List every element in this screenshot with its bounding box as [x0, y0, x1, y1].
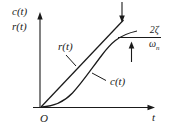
- y-axis-label-c-text: c(t): [12, 5, 27, 17]
- x-axis-arrowhead: [148, 105, 156, 110]
- y-axis-label-c: c(t): [12, 6, 27, 17]
- curve-c-of-t: [41, 31, 137, 107]
- y-axis-arrowhead: [37, 12, 42, 20]
- x-axis-label: t: [152, 112, 155, 123]
- arrow-up-head-icon: [129, 42, 135, 49]
- curve-label-c: c(t): [110, 76, 125, 87]
- leader-line-c: [92, 73, 106, 81]
- curve-label-r-text: r(t): [58, 40, 73, 52]
- curve-label-c-text: c(t): [110, 75, 125, 87]
- fraction-denominator-symbol: ω: [149, 38, 156, 49]
- fraction-denominator: ωn: [148, 39, 161, 52]
- fraction-numerator: 2ζ: [148, 25, 161, 36]
- fraction-denominator-subscript: n: [156, 44, 160, 52]
- curve-r-of-t: [41, 20, 124, 107]
- fraction: 2ζ ωn: [148, 25, 161, 52]
- leader-line-r: [66, 55, 76, 66]
- curve-label-r: r(t): [58, 41, 73, 52]
- arrow-down-head-icon: [119, 16, 125, 23]
- y-axis-label-r-text: r(t): [12, 20, 27, 32]
- steady-state-error-annotation: 2ζ ωn: [148, 25, 161, 52]
- y-axis-label-r: r(t): [12, 21, 27, 32]
- origin-label: O: [40, 113, 48, 124]
- ramp-response-figure: c(t) r(t) r(t) c(t) O t 2ζ ωn: [0, 0, 174, 139]
